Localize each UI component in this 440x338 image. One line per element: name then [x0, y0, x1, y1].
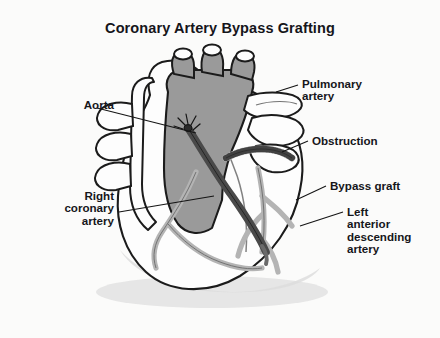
arch-branch-opening-1 — [174, 49, 192, 60]
label-pulmonary-artery: Pulmonary artery — [302, 78, 412, 103]
leader-lad-artery — [300, 212, 343, 226]
illustration-canvas: Coronary Artery Bypass Grafting — [0, 0, 440, 338]
heart-diagram — [0, 0, 440, 338]
label-obstruction: Obstruction — [312, 135, 422, 147]
label-bypass-graft: Bypass graft — [330, 180, 438, 192]
label-right-coronary-artery: Right coronary artery — [30, 190, 114, 227]
label-left-anterior-descending-artery: Left anterior descending artery — [347, 206, 439, 256]
aortic-arch-branches — [172, 45, 255, 81]
arch-branch-opening-3 — [236, 51, 254, 62]
arch-branch-opening-2 — [203, 45, 221, 56]
label-aorta: Aorta — [52, 99, 114, 111]
leader-pulmonary-artery — [276, 85, 298, 92]
